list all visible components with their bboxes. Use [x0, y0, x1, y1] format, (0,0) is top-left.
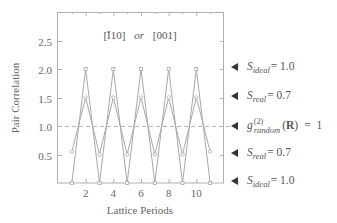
y-tick-label: 1.0 — [38, 121, 52, 133]
data-point — [167, 96, 170, 99]
series-real — [70, 96, 212, 156]
series-ideal — [70, 68, 211, 185]
data-point — [208, 150, 211, 153]
real-line — [72, 98, 210, 155]
data-series — [70, 68, 212, 185]
y-axis-title: Pair Correlation — [9, 62, 21, 133]
data-point — [84, 68, 87, 71]
data-point — [70, 182, 73, 185]
annotation-real: Sreal= 0.7 — [231, 89, 291, 104]
x-tick-label: 6 — [138, 187, 144, 199]
data-point — [181, 182, 184, 185]
arrow-left-icon — [231, 92, 238, 100]
title-direction-1: [Ī10] — [103, 29, 125, 41]
data-point — [139, 96, 142, 99]
arrow-left-icon — [231, 177, 238, 185]
arrow-left-icon — [231, 149, 238, 157]
data-point — [126, 182, 129, 185]
x-tick-label: 4 — [111, 187, 117, 199]
pair-correlation-chart: 2468100.51.01.52.02.5 [Ī10] or [001] Lat… — [0, 0, 337, 223]
data-point — [112, 68, 115, 71]
annotation-real: Sreal= 0.7 — [231, 146, 291, 161]
data-point — [153, 182, 156, 185]
data-point — [112, 96, 115, 99]
data-point — [125, 153, 128, 156]
x-tick-label: 8 — [166, 187, 172, 199]
annotation-ideal: Sideal= 1.0 — [231, 60, 295, 75]
data-point — [181, 153, 184, 156]
data-point — [209, 182, 212, 185]
annotation-ideal: Sideal= 1.0 — [231, 174, 295, 189]
data-point — [167, 68, 170, 71]
y-tick-label: 0.5 — [38, 150, 52, 162]
x-axis-title: Lattice Periods — [107, 204, 173, 216]
data-point — [153, 153, 156, 156]
data-point — [84, 96, 87, 99]
title-connector: or — [134, 29, 145, 41]
chart-title: [Ī10] or [001] — [103, 29, 176, 41]
data-point — [195, 68, 198, 71]
arrow-left-icon — [231, 122, 238, 130]
data-point — [140, 68, 143, 71]
x-tick-label: 10 — [191, 187, 203, 199]
y-tick-label: 2.5 — [38, 36, 52, 48]
title-direction-2: [001] — [153, 29, 177, 41]
axis-tick-labels: 2468100.51.01.52.02.5 — [38, 36, 202, 200]
y-tick-label: 1.5 — [38, 93, 52, 105]
data-point — [70, 150, 73, 153]
arrow-left-icon — [231, 63, 238, 71]
data-point — [98, 182, 101, 185]
annotation-random: g(2)random(R)= 1 — [231, 117, 322, 135]
data-point — [195, 96, 198, 99]
y-tick-label: 2.0 — [38, 64, 52, 76]
x-tick-label: 2 — [83, 187, 89, 199]
data-point — [98, 153, 101, 156]
